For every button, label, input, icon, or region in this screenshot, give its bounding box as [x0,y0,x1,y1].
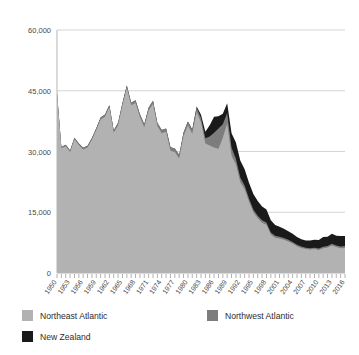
y-tick-label-3: 45,000 [28,87,51,96]
x-tick-label-16: 1998 [253,278,268,295]
x-tick-label-15: 1995 [240,278,255,295]
legend-swatch-1 [207,310,218,321]
legend-label-2: New Zealand [40,332,91,342]
x-tick-label-20: 2010 [305,278,320,295]
stacked-area-chart: 015,00030,00045,00060,000195019531956195… [0,0,359,355]
y-tick-label-0: 0 [47,269,51,278]
legend-label-0: Northeast Atlantic [40,311,108,321]
x-tick-label-0: 1950 [43,278,58,295]
y-tick-label-2: 30,000 [28,148,51,157]
x-tick-label-12: 1986 [200,278,215,295]
x-tick-label-10: 1980 [174,278,189,295]
x-tick-label-6: 1968 [122,278,137,295]
x-tick-label-17: 2001 [266,278,281,295]
x-tick-label-11: 1983 [187,278,202,295]
x-tick-label-13: 1989 [213,278,228,295]
x-tick-label-4: 1962 [96,278,111,295]
y-tick-label-4: 60,000 [28,26,51,35]
x-tick-label-22: 2016 [331,278,346,295]
x-tick-label-3: 1959 [82,278,97,295]
legend-swatch-0 [22,310,33,321]
x-tick-label-21: 2013 [318,278,333,295]
legend-label-1: Northwest Atlantic [225,311,294,321]
y-tick-label-1: 15,000 [28,208,51,217]
x-tick-label-1: 1953 [56,278,71,295]
x-tick-label-18: 2004 [279,278,294,295]
x-tick-label-8: 1974 [148,278,163,295]
chart-canvas: 015,00030,00045,00060,000195019531956195… [0,0,359,355]
x-tick-label-9: 1977 [161,278,176,295]
x-tick-label-19: 2007 [292,278,307,295]
x-tick-label-2: 1956 [69,278,84,295]
x-tick-label-5: 1965 [109,278,124,295]
legend-swatch-2 [22,331,33,342]
x-tick-label-7: 1971 [135,278,150,295]
x-tick-label-14: 1992 [226,278,241,295]
